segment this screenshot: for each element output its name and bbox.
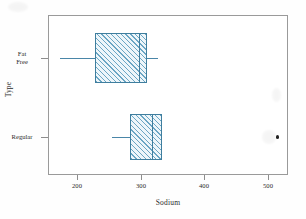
x-tick-label-200: 200 — [62, 182, 92, 189]
x-axis-title: Sodium — [48, 198, 288, 207]
x-tick-mark-400 — [204, 175, 205, 180]
y-axis-title: Type — [4, 68, 13, 112]
whisker-fat-free-lower — [60, 58, 95, 59]
x-tick-label-500: 500 — [253, 182, 283, 189]
whisker-fat-free-upper — [147, 58, 158, 59]
box-regular — [130, 114, 162, 160]
x-tick-mark-200 — [77, 175, 78, 180]
y-tick-mark-fat-free — [41, 58, 48, 59]
y-tick-mark-regular — [41, 137, 48, 138]
outlier-point-regular — [276, 135, 280, 139]
x-tick-label-400: 400 — [189, 182, 219, 189]
median-fat-free — [139, 33, 140, 83]
x-tick-mark-300 — [141, 175, 142, 180]
plot-area — [48, 15, 288, 175]
y-tick-label-regular: Regular — [0, 133, 44, 141]
median-regular — [152, 114, 153, 160]
whisker-regular-lower — [112, 137, 130, 138]
x-tick-label-300: 300 — [126, 182, 156, 189]
x-tick-mark-500 — [268, 175, 269, 180]
y-tick-label-fat-free: Fat Free — [0, 50, 44, 65]
boxplot-figure: Type Sodium Fat Free Regular 200 300 400… — [0, 0, 306, 219]
scan-artifact — [8, 2, 28, 12]
